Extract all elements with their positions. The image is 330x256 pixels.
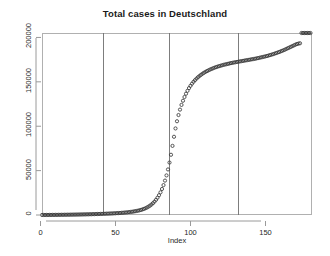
y-tick-label: 200000 <box>24 16 33 56</box>
y-tick-label: 150000 <box>24 60 33 100</box>
data-point <box>165 174 168 177</box>
data-point <box>160 187 163 190</box>
vertical-marker-lines <box>104 33 239 215</box>
data-series-points <box>40 31 312 216</box>
x-axis-ticks <box>41 221 266 226</box>
data-point <box>175 120 178 123</box>
chart-figure: Total cases in Deutschland 0500001000001… <box>0 0 330 256</box>
plot-area <box>42 33 312 215</box>
data-point <box>171 144 174 147</box>
data-point <box>162 184 165 187</box>
y-axis-ticks <box>36 37 41 215</box>
data-point <box>174 127 177 130</box>
data-point <box>159 191 162 194</box>
plot-canvas <box>42 33 312 215</box>
data-point <box>178 108 181 111</box>
y-tick-label: 50000 <box>24 149 33 189</box>
x-axis-title: Index <box>42 236 312 245</box>
data-point <box>180 103 183 106</box>
y-tick-label: 100000 <box>24 105 33 145</box>
data-point <box>163 179 166 182</box>
data-point <box>183 95 186 98</box>
data-point <box>181 99 184 102</box>
data-point <box>172 135 175 138</box>
page-title: Total cases in Deutschland <box>0 8 330 19</box>
data-point <box>177 113 180 116</box>
